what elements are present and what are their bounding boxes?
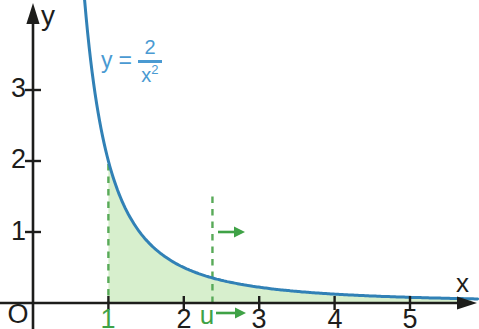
fraction-numerator: 2 bbox=[140, 37, 159, 60]
equation-lhs: y bbox=[101, 49, 113, 72]
shaded-region bbox=[108, 161, 472, 302]
plot-svg bbox=[0, 0, 479, 329]
equation-fraction: 2 x2 bbox=[138, 37, 162, 85]
x-tick-label-3: 3 bbox=[243, 306, 275, 329]
x-axis-label: x bbox=[456, 270, 469, 296]
y-axis-label: y bbox=[41, 2, 55, 30]
u-motion-arrow-icon bbox=[218, 227, 245, 238]
x-tick-label-1: 1 bbox=[92, 306, 124, 329]
y-axis-arrow-icon bbox=[26, 3, 39, 24]
curve-equation: y = 2 x2 bbox=[101, 37, 162, 85]
graph-canvas: y x O 3 2 1 1 2 3 4 5 u y = 2 x2 bbox=[0, 0, 479, 329]
y-tick-label-1: 1 bbox=[0, 218, 26, 245]
y-tick-label-3: 3 bbox=[0, 75, 26, 102]
u-boundary-label: u bbox=[193, 302, 221, 328]
y-tick-label-2: 2 bbox=[0, 146, 26, 173]
x-tick-label-4: 4 bbox=[319, 306, 351, 329]
origin-label: O bbox=[5, 301, 31, 328]
fraction-denominator: x2 bbox=[141, 63, 158, 85]
equation-equals: = bbox=[119, 49, 132, 72]
x-tick-label-5: 5 bbox=[394, 306, 426, 329]
